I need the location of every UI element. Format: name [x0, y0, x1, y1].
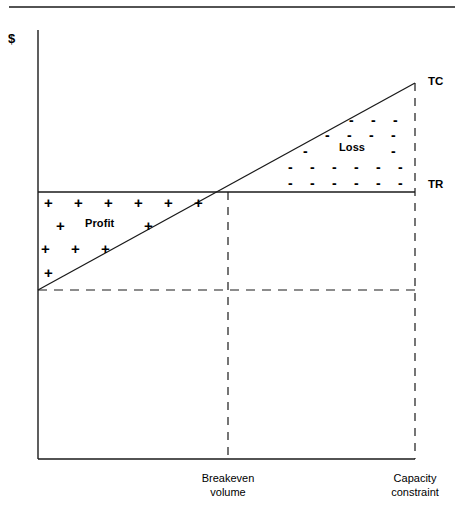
- minus-symbol: -: [354, 160, 359, 174]
- minus-symbol: -: [354, 176, 359, 190]
- minus-symbol: -: [288, 176, 293, 190]
- minus-symbol: -: [391, 128, 396, 142]
- plus-symbol: +: [134, 195, 143, 210]
- plus-symbol: +: [101, 241, 110, 256]
- minus-symbol: -: [332, 160, 337, 174]
- plus-symbol: +: [44, 265, 53, 280]
- minus-symbol: -: [376, 160, 381, 174]
- y-axis-label-dollar: $: [8, 32, 15, 45]
- plus-symbol: +: [56, 218, 65, 233]
- capacity-constraint-caption: Capacity constraint: [366, 471, 464, 499]
- plus-symbol: +: [104, 195, 113, 210]
- minus-symbol: -: [288, 160, 293, 174]
- total-cost-label: TC: [428, 75, 444, 88]
- minus-symbol: -: [303, 144, 308, 158]
- total-revenue-label: TR: [428, 178, 444, 191]
- minus-symbol: -: [376, 176, 381, 190]
- minus-symbol: -: [325, 128, 330, 142]
- plus-symbol: +: [144, 218, 153, 233]
- profit-region-label: Profit: [85, 217, 114, 230]
- minus-symbol: -: [349, 113, 354, 127]
- minus-symbol: -: [398, 160, 403, 174]
- plus-symbol: +: [164, 195, 173, 210]
- loss-region-label: Loss: [339, 141, 365, 154]
- plus-symbol: +: [44, 195, 53, 210]
- plus-symbol: +: [74, 195, 83, 210]
- minus-symbol: -: [347, 128, 352, 142]
- plus-symbol: +: [194, 195, 203, 210]
- minus-symbol: -: [398, 176, 403, 190]
- minus-symbol: -: [391, 144, 396, 158]
- minus-symbol: -: [332, 176, 337, 190]
- plus-symbol: +: [71, 241, 80, 256]
- breakeven-volume-caption: Breakeven volume: [178, 471, 278, 499]
- minus-symbol: -: [310, 160, 315, 174]
- minus-symbol: -: [369, 128, 374, 142]
- minus-symbol: -: [371, 113, 376, 127]
- plus-symbol: +: [41, 241, 50, 256]
- minus-symbol: -: [393, 113, 398, 127]
- minus-symbol: -: [310, 176, 315, 190]
- chart-canvas: [0, 0, 464, 511]
- breakeven-chart-figure: $ TC TR Profit Loss Breakeven volume Cap…: [0, 0, 464, 511]
